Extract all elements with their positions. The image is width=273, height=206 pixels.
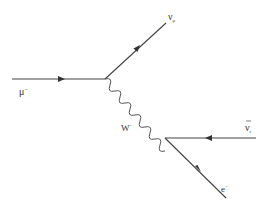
- muon-neutrino-label: νμ: [168, 11, 176, 23]
- feynman-diagram: μ− νμ W− νe e−: [0, 0, 273, 206]
- w-boson-label: W−: [121, 123, 133, 133]
- electron-label: e−: [221, 184, 228, 194]
- muon-neutrino-line: [105, 23, 166, 79]
- electron-line: [165, 138, 226, 198]
- electron-antineutrino-line: [165, 135, 256, 141]
- w-boson-propagator: [105, 79, 165, 152]
- muon-label: μ−: [19, 86, 28, 97]
- arrow-right-icon: [58, 76, 65, 82]
- arrow-left-icon: [205, 135, 212, 141]
- electron-antineutrino-label: νe: [245, 122, 253, 134]
- muon-line: [12, 76, 105, 82]
